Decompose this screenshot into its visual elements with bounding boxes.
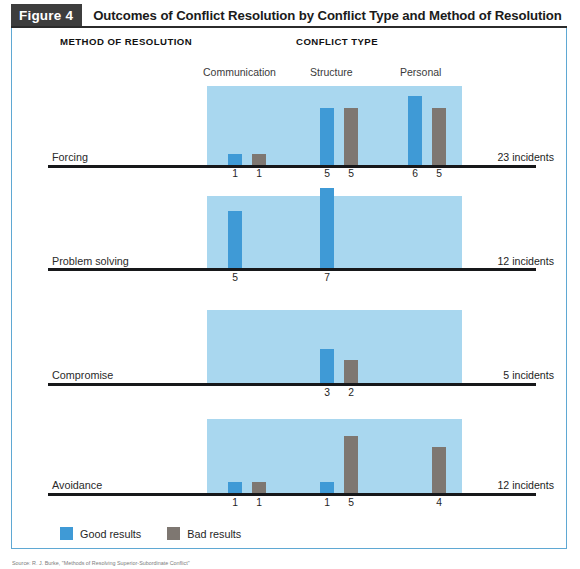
panel-baseline-axis bbox=[48, 268, 536, 271]
method-label-compromise: Compromise bbox=[52, 369, 113, 381]
legend-item-good: Good results bbox=[60, 527, 141, 540]
chart-legend: Good results Bad results bbox=[60, 527, 241, 540]
bar-value-good-communication: 1 bbox=[225, 168, 245, 179]
bar-value-bad-structure: 2 bbox=[341, 387, 361, 398]
conflict-type-label-structure: Structure bbox=[310, 66, 353, 78]
bar-value-bad-communication: 1 bbox=[249, 497, 269, 508]
source-caption: Source: R. J. Burke, "Methods of Resolvi… bbox=[12, 560, 572, 566]
bar-value-bad-structure: 5 bbox=[341, 497, 361, 508]
method-label-forcing: Forcing bbox=[52, 151, 88, 163]
legend-label-good: Good results bbox=[80, 528, 141, 540]
panel-baseline-axis bbox=[48, 493, 536, 496]
legend-item-bad: Bad results bbox=[167, 527, 241, 540]
bar-good-structure bbox=[320, 482, 334, 494]
bar-value-good-personal: 6 bbox=[405, 168, 425, 179]
incidents-total-forcing: 23 incidents bbox=[497, 151, 554, 163]
bar-bad-personal bbox=[432, 447, 446, 493]
bar-bad-personal bbox=[432, 108, 446, 166]
method-label-avoidance: Avoidance bbox=[52, 479, 102, 491]
figure-title: Outcomes of Conflict Resolution by Confl… bbox=[82, 4, 567, 26]
legend-label-bad: Bad results bbox=[187, 528, 241, 540]
panel-background-band bbox=[207, 310, 462, 383]
bar-good-communication bbox=[228, 154, 242, 166]
bar-value-good-structure: 1 bbox=[317, 497, 337, 508]
panel-baseline-axis bbox=[48, 383, 536, 386]
bar-good-communication bbox=[228, 211, 242, 269]
figure-number-tag: Figure 4 bbox=[11, 4, 82, 26]
bar-value-good-structure: 3 bbox=[317, 387, 337, 398]
incidents-total-compromise: 5 incidents bbox=[503, 369, 554, 381]
panel-background-band bbox=[207, 196, 462, 268]
conflict-type-label-communication: Communication bbox=[203, 66, 276, 78]
bar-bad-structure bbox=[344, 436, 358, 494]
bar-good-communication bbox=[228, 482, 242, 494]
panel-background-band bbox=[207, 419, 462, 493]
bar-bad-communication bbox=[252, 482, 266, 494]
incidents-total-problem-solving: 12 incidents bbox=[497, 255, 554, 267]
panel-baseline-axis bbox=[48, 165, 536, 168]
bar-value-good-structure: 5 bbox=[317, 168, 337, 179]
bar-bad-structure bbox=[344, 108, 358, 166]
bar-value-bad-personal: 5 bbox=[429, 168, 449, 179]
bar-value-good-communication: 5 bbox=[225, 272, 245, 283]
conflict-type-label-personal: Personal bbox=[400, 66, 441, 78]
bar-value-good-communication: 1 bbox=[225, 497, 245, 508]
bar-good-structure bbox=[320, 108, 334, 166]
bar-value-bad-communication: 1 bbox=[249, 168, 269, 179]
method-of-resolution-heading: METHOD OF RESOLUTION bbox=[60, 36, 192, 47]
bar-good-structure bbox=[320, 349, 334, 384]
bar-value-bad-structure: 5 bbox=[341, 168, 361, 179]
good-results-swatch-icon bbox=[60, 527, 73, 540]
figure-header: Figure 4 Outcomes of Conflict Resolution… bbox=[11, 4, 567, 28]
conflict-type-heading: CONFLICT TYPE bbox=[296, 36, 378, 47]
incidents-total-avoidance: 12 incidents bbox=[497, 479, 554, 491]
bar-good-personal bbox=[408, 96, 422, 165]
method-label-problem-solving: Problem solving bbox=[52, 255, 129, 267]
bar-value-bad-personal: 4 bbox=[429, 497, 449, 508]
panel-background-band bbox=[207, 86, 462, 165]
bar-good-structure bbox=[320, 188, 334, 269]
bar-value-good-structure: 7 bbox=[317, 272, 337, 283]
bar-bad-communication bbox=[252, 154, 266, 166]
bad-results-swatch-icon bbox=[167, 527, 180, 540]
bar-bad-structure bbox=[344, 360, 358, 383]
